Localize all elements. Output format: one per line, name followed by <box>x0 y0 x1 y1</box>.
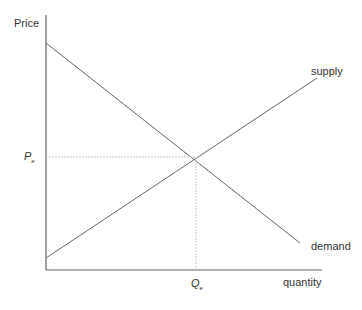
supply-demand-chart <box>0 0 362 310</box>
supply-label: supply <box>311 65 343 77</box>
supply-line <box>46 78 317 258</box>
pe-sub: e <box>31 158 34 164</box>
pe-label: Pe <box>24 150 35 164</box>
demand-label: demand <box>311 240 351 252</box>
x-axis-label: quantity <box>283 276 322 288</box>
qe-sub: e <box>200 285 203 291</box>
y-axis-label: Price <box>14 17 39 29</box>
demand-line <box>46 43 300 243</box>
qe-label: Qe <box>191 277 203 291</box>
qe-main: Q <box>191 277 200 289</box>
